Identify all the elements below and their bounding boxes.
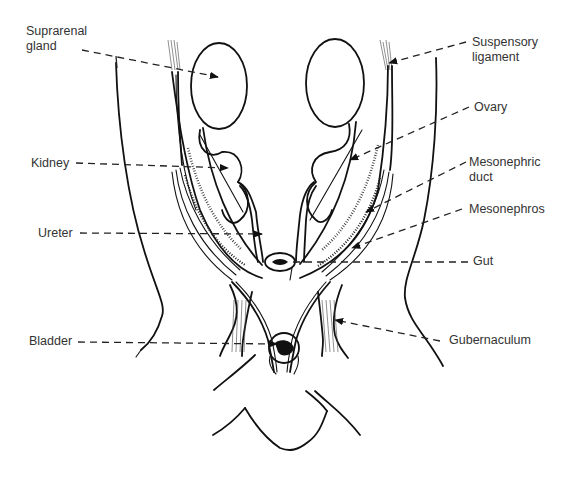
leader-gubernaculum [335,320,440,341]
suprarenal-gland-left [191,43,247,129]
leader-ureter [80,233,262,234]
label-suprarenal-gland: Suprarenal gland [26,24,87,54]
kidney-right [296,124,350,262]
body-wall-left [116,63,163,357]
gubernaculum-left [220,285,252,356]
label-bladder: Bladder [29,334,72,349]
leader-suspensory-ligament [389,42,466,63]
label-gut: Gut [473,254,493,269]
label-gubernaculum: Gubernaculum [449,333,531,348]
anatomy-diagram [0,0,573,481]
leader-bladder [78,342,277,344]
label-suspensory-ligament: Suspensory ligament [472,35,538,65]
leader-ovary [350,107,469,160]
label-mesonephros: Mesonephros [469,202,545,217]
label-mesonephric-duct: Mesonephric duct [469,155,541,185]
ureters [232,282,330,372]
mesonephric-ridge-right [300,40,393,280]
gut [265,253,295,280]
pelvic-outline [213,355,360,450]
label-ureter: Ureter [38,226,73,241]
label-kidney: Kidney [31,156,69,171]
label-ovary: Ovary [474,100,507,115]
body-wall-right [405,58,443,366]
leader-suprarenal-gland [82,50,218,77]
leader-kidney [76,163,228,168]
suprarenal-gland-right [306,39,364,127]
